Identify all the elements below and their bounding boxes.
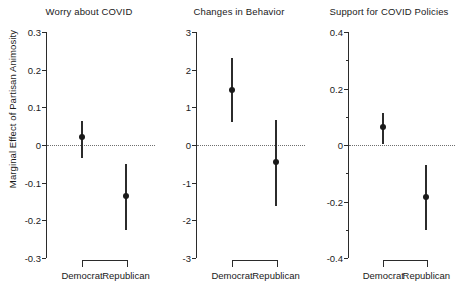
y-axis-tick-label: -1 — [183, 177, 191, 188]
estimate-point — [423, 194, 429, 200]
estimate-point — [79, 134, 85, 140]
y-axis-tick-label: -2 — [183, 215, 191, 226]
y-axis-tick-label: -3 — [183, 253, 191, 264]
estimate-point — [123, 193, 129, 199]
chart-panel: Changes in Behavior3210-1-2-3DemocratRep… — [178, 0, 300, 289]
y-axis-tick — [42, 70, 46, 71]
estimate-point — [273, 159, 279, 165]
y-axis-tick — [344, 32, 348, 33]
chart-panel: Worry about COVID0.30.20.10-0.1-0.2-0.3D… — [28, 0, 150, 289]
y-axis-minor-tick — [346, 173, 349, 174]
y-axis-tick-label: 0 — [338, 140, 343, 151]
y-axis-minor-tick — [346, 117, 349, 118]
y-axis-tick-label: 0.1 — [28, 102, 41, 113]
x-axis-category-label: Democrat — [363, 270, 404, 281]
y-axis-tick-label: 0.4 — [330, 27, 343, 38]
category-bracket — [82, 260, 128, 267]
y-axis-tick — [192, 107, 196, 108]
y-axis-tick — [192, 220, 196, 221]
y-axis-tick — [42, 183, 46, 184]
x-axis-category-label: Republican — [403, 270, 451, 281]
y-axis-tick-label: 1 — [186, 102, 191, 113]
y-axis-tick — [344, 202, 348, 203]
y-axis-tick — [344, 89, 348, 90]
x-axis-category-label: Democrat — [211, 270, 252, 281]
plot-area: 0.30.20.10-0.1-0.2-0.3DemocratRepublican — [46, 32, 146, 258]
y-axis-tick — [42, 32, 46, 33]
x-axis-category-label: Republican — [102, 270, 150, 281]
y-axis-tick-label: -0.4 — [327, 253, 343, 264]
x-axis-category-label: Republican — [252, 270, 300, 281]
y-axis-minor-tick — [346, 60, 349, 61]
y-axis-tick — [42, 145, 46, 146]
y-axis-tick — [192, 258, 196, 259]
y-axis-tick — [192, 32, 196, 33]
category-bracket — [383, 260, 428, 267]
y-axis-tick-label: -0.2 — [327, 196, 343, 207]
zero-reference-line — [197, 145, 305, 146]
y-axis-tick-label: 0.2 — [330, 83, 343, 94]
y-axis-tick-label: -0.1 — [25, 177, 41, 188]
y-axis-tick-label: 0.3 — [28, 27, 41, 38]
panel-title: Support for COVID Policies — [328, 6, 450, 17]
category-bracket — [232, 260, 278, 267]
panel-title: Worry about COVID — [28, 6, 150, 17]
y-axis-tick — [344, 145, 348, 146]
y-axis-tick — [344, 258, 348, 259]
y-axis-tick-label: -0.3 — [25, 253, 41, 264]
y-axis-tick — [192, 145, 196, 146]
y-axis-tick-label: -0.2 — [25, 215, 41, 226]
chart-panel: Support for COVID Policies0.40.20-0.2-0.… — [328, 0, 450, 289]
y-axis-tick — [42, 258, 46, 259]
y-axis-tick-label: 2 — [186, 64, 191, 75]
plot-area: 0.40.20-0.2-0.4DemocratRepublican — [348, 32, 446, 258]
y-axis-tick — [42, 107, 46, 108]
estimate-point — [229, 87, 235, 93]
panel-title: Changes in Behavior — [178, 6, 300, 17]
y-axis-tick-label: 0 — [36, 140, 41, 151]
y-axis-tick-label: 3 — [186, 27, 191, 38]
zero-reference-line — [47, 145, 155, 146]
y-axis-tick — [192, 70, 196, 71]
y-axis-minor-tick — [346, 230, 349, 231]
plot-area: 3210-1-2-3DemocratRepublican — [196, 32, 296, 258]
x-axis-category-label: Democrat — [61, 270, 102, 281]
y-axis-tick-label: 0 — [186, 140, 191, 151]
y-axis-tick — [192, 183, 196, 184]
y-axis-label: Marginal Effect of Partisan Animosity — [7, 9, 21, 209]
y-axis-tick-label: 0.2 — [28, 64, 41, 75]
estimate-point — [380, 124, 386, 130]
zero-reference-line — [349, 145, 455, 146]
y-axis-tick — [42, 220, 46, 221]
